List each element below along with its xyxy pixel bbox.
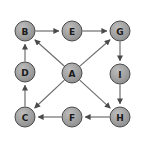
graph-node-e[interactable]: E [62,21,82,41]
graph-node-g[interactable]: G [110,21,130,41]
graph-edge-a-to-g [80,40,110,66]
node-circle [62,63,82,83]
graph-edge-a-to-c [35,80,65,108]
graph-node-f[interactable]: F [62,107,82,127]
graph-node-d[interactable]: D [15,62,35,82]
node-circle [110,21,130,41]
node-layer: BEGDAICFH [15,21,130,127]
graph-node-c[interactable]: C [15,107,35,127]
node-circle [15,62,35,82]
node-circle [62,21,82,41]
graph-node-h[interactable]: H [110,107,130,127]
node-circle [110,107,130,127]
node-circle [62,107,82,127]
graph-edge-a-to-h [80,80,111,108]
graph-node-i[interactable]: I [110,64,130,84]
node-circle [15,21,35,41]
graph-edge-a-to-b [35,40,64,66]
graph-node-a[interactable]: A [62,63,82,83]
node-circle [110,64,130,84]
graph-diagram: BEGDAICFH [0,0,145,145]
graph-node-b[interactable]: B [15,21,35,41]
node-circle [15,107,35,127]
graph-canvas: BEGDAICFH [0,0,145,145]
